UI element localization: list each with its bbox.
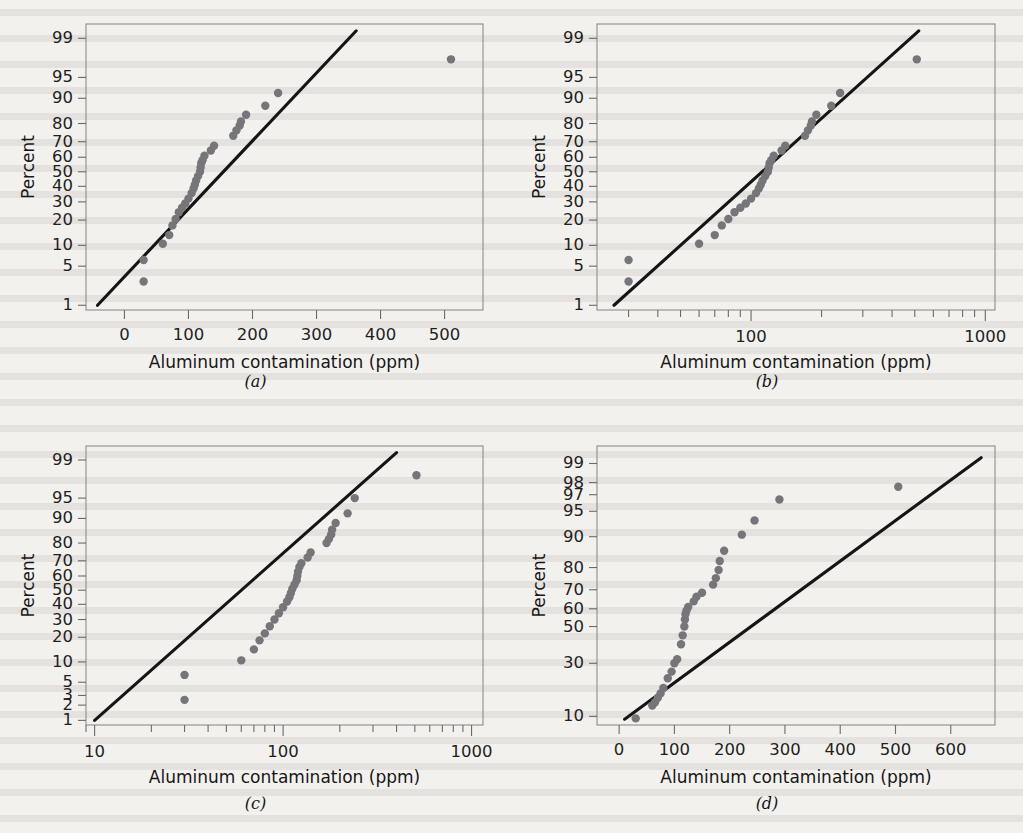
panel-b-svg: 1510203040506070809095991001000Aluminum … [511,6,1023,356]
data-point [714,566,722,574]
y-tick-label: 30 [563,653,584,672]
panel-d: 1030506070809095979899010020030040050060… [511,416,1023,833]
data-point [698,589,706,597]
y-tick-label: 80 [52,533,73,552]
data-point [261,102,269,110]
data-point [894,482,902,490]
data-point [242,111,250,119]
y-tick-label: 10 [563,235,584,254]
data-point [255,636,263,644]
x-axis-title: Aluminum contamination (ppm) [149,352,420,372]
data-point [673,655,681,663]
panel-d-svg: 1030506070809095979899010020030040050060… [511,428,1023,778]
y-tick-label: 10 [563,706,584,725]
data-point [261,629,269,637]
data-point [165,231,173,239]
y-tick-label: 70 [52,551,73,570]
data-point [343,509,351,517]
data-point [447,55,455,63]
panel-c-caption: (c) [0,794,511,813]
y-tick-label: 60 [563,599,584,618]
data-point [695,240,703,248]
data-point [716,557,724,565]
y-tick-label: 5 [63,256,74,275]
y-tick-label: 99 [52,450,73,469]
data-point [631,714,639,722]
y-tick-label: 95 [52,488,73,507]
data-point [624,256,632,264]
x-tick-label: 100 [659,740,691,759]
y-tick-label: 90 [52,88,73,107]
y-tick-label: 90 [52,508,73,527]
panel-d-caption: (d) [511,794,1023,813]
data-point [237,117,245,125]
data-point [412,471,420,479]
panel-d-plot: 1030506070809095979899010020030040050060… [511,428,1023,778]
y-tick-label: 80 [563,558,584,577]
y-tick-label: 20 [52,210,73,229]
data-point [724,215,732,223]
x-tick-label: 500 [880,740,912,759]
y-tick-label: 70 [563,580,584,599]
data-point [139,277,147,285]
x-tick-label: 10 [84,742,105,761]
y-tick-label: 5 [63,672,74,691]
data-point [250,645,258,653]
data-point [297,559,305,567]
data-point [677,640,685,648]
data-point [712,574,720,582]
y-tick-label: 95 [52,67,73,86]
data-point [237,656,245,664]
data-point [139,256,147,264]
x-tick-label: 0 [614,740,625,759]
y-axis-title: Percent [18,553,38,617]
y-tick-label: 20 [563,210,584,229]
data-point [781,142,789,150]
x-axis-title: Aluminum contamination (ppm) [149,767,420,787]
data-point [180,696,188,704]
panel-a: 1510203040506070809095990100200300400500… [0,0,511,416]
data-point [913,55,921,63]
data-point [775,495,783,503]
x-tick-label: 300 [769,740,801,759]
data-point [836,89,844,97]
data-point [827,102,835,110]
x-tick-label: 1000 [451,742,493,761]
y-axis-title: Percent [529,553,549,617]
panel-b-plot: 1510203040506070809095991001000Aluminum … [511,6,1023,356]
x-axis-title: Aluminum contamination (ppm) [660,767,931,787]
data-point [159,240,167,248]
x-tick-label: 100 [267,742,299,761]
y-tick-label: 99 [52,28,73,47]
x-axis-title: Aluminum contamination (ppm) [660,352,931,372]
y-tick-label: 80 [563,114,584,133]
data-point [210,142,218,150]
panel-b: 1510203040506070809095991001000Aluminum … [511,0,1023,416]
x-tick-label: 400 [824,740,856,759]
x-tick-label: 200 [714,740,746,759]
data-point [720,547,728,555]
data-point [750,516,758,524]
y-tick-label: 95 [563,501,584,520]
x-tick-label: 500 [429,325,461,344]
data-point [624,277,632,285]
data-point [180,671,188,679]
panel-b-caption: (b) [511,372,1023,391]
y-tick-label: 10 [52,235,73,254]
data-point [718,221,726,229]
data-point [738,530,746,538]
y-tick-label: 1 [574,295,585,314]
x-tick-label: 0 [119,325,130,344]
x-tick-label: 300 [301,325,333,344]
x-tick-label: 100 [735,327,767,346]
y-tick-label: 50 [563,617,584,636]
data-point [274,89,282,97]
y-tick-label: 98 [563,473,584,492]
panel-a-svg: 1510203040506070809095990100200300400500… [0,6,511,356]
data-point [770,152,778,160]
plot-frame [86,446,483,725]
data-point [331,519,339,527]
data-point [711,231,719,239]
x-tick-label: 100 [173,325,205,344]
x-tick-label: 200 [237,325,269,344]
